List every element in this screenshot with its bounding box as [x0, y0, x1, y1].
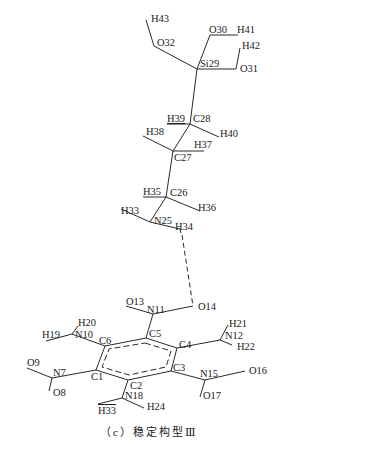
- label-h36: H36: [198, 202, 216, 213]
- label-h19: H19: [42, 329, 60, 340]
- label-h43: H43: [151, 13, 169, 24]
- label-h40: H40: [220, 128, 238, 139]
- label-o8: O8: [53, 387, 66, 398]
- label-h42: H42: [242, 40, 260, 51]
- label-c1: C1: [91, 371, 103, 382]
- label-n7: N7: [53, 367, 66, 378]
- label-h41: H41: [237, 24, 255, 35]
- label-n18: N18: [125, 390, 143, 401]
- label-h24: H24: [147, 401, 166, 412]
- label-c26: C26: [170, 187, 188, 198]
- label-o31: O31: [240, 63, 258, 74]
- label-h39: H39: [167, 113, 185, 124]
- label-h20: H20: [78, 317, 96, 328]
- label-o16: O16: [249, 365, 267, 376]
- label-h33-bottom: H33: [98, 405, 116, 416]
- label-c28: C28: [193, 113, 211, 124]
- label-h22: H22: [237, 341, 255, 352]
- silanol-bonds: [146, 20, 240, 124]
- label-o9: O9: [27, 357, 40, 368]
- label-o32: O32: [157, 37, 175, 48]
- label-o30: O30: [209, 24, 227, 35]
- label-h35: H35: [143, 186, 161, 197]
- molecule-diagram: H43 O32 O30 H41 H42 Si29 O31 H39 C28 H40…: [0, 0, 367, 457]
- label-o14: O14: [198, 301, 217, 312]
- label-o13: O13: [126, 296, 144, 307]
- label-c5: C5: [149, 328, 161, 339]
- label-h38: H38: [146, 126, 164, 137]
- atom-labels: H43 O32 O30 H41 H42 Si29 O31 H39 C28 H40…: [27, 13, 267, 416]
- label-h34: H34: [175, 221, 194, 232]
- molecular-structure-figure: H43 O32 O30 H41 H42 Si29 O31 H39 C28 H40…: [0, 0, 367, 457]
- label-c27: C27: [174, 152, 192, 163]
- label-h37: H37: [194, 139, 212, 150]
- label-n12: N12: [225, 330, 243, 341]
- label-c3: C3: [173, 362, 185, 373]
- label-c4: C4: [179, 339, 192, 350]
- label-h33-top: H33: [121, 205, 139, 216]
- figure-caption: （c）稳定构型Ⅲ: [100, 425, 198, 438]
- label-n10: N10: [75, 329, 93, 340]
- label-h21: H21: [229, 318, 247, 329]
- hydrogen-bond-dashed: [182, 235, 193, 306]
- label-n25: N25: [154, 215, 172, 226]
- label-n11: N11: [147, 304, 165, 315]
- label-si29: Si29: [200, 58, 219, 69]
- label-c6: C6: [99, 335, 111, 346]
- label-n15: N15: [200, 368, 218, 379]
- label-o17: O17: [203, 390, 221, 401]
